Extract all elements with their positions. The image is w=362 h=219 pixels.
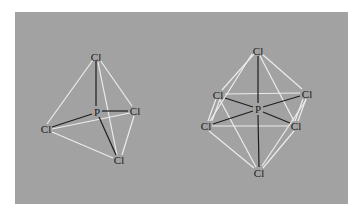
- atom-label-ligand: Cl: [201, 120, 211, 132]
- tetrahedron-edges: [47, 60, 134, 158]
- octahedron-labels: P Cl Cl Cl Cl Cl Cl: [201, 45, 312, 179]
- atom-label-ligand: Cl: [213, 89, 223, 101]
- atom-label-ligand: Cl: [254, 167, 264, 179]
- atom-label-ligand: Cl: [130, 105, 140, 117]
- atom-label-ligand: Cl: [302, 88, 312, 100]
- atom-label-ligand: Cl: [253, 45, 263, 57]
- atom-label-ligand: Cl: [41, 123, 51, 135]
- atom-label-ligand: Cl: [291, 120, 301, 132]
- tetrahedron-bonds: [52, 61, 128, 155]
- atom-label-ligand: Cl: [114, 154, 124, 166]
- atom-label-center: P: [94, 106, 100, 118]
- atom-label-center: P: [255, 103, 261, 115]
- molecule-diagram: P Cl Cl Cl Cl P Cl Cl Cl Cl Cl Cl: [0, 0, 362, 219]
- atom-label-ligand: Cl: [91, 51, 101, 63]
